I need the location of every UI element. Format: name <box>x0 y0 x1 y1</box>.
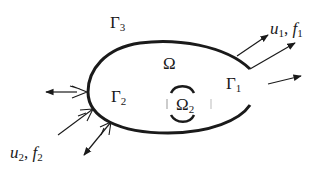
omega-label: Ω <box>163 55 176 72</box>
arrow-left-3 <box>84 122 111 155</box>
omega2-label: Ω2 <box>176 96 194 115</box>
arrow-f1 <box>250 43 295 69</box>
omega2-bottom-arc <box>171 115 194 122</box>
omega2-top-arc <box>171 86 194 93</box>
u1-f1-label: u1, f1 <box>270 20 303 39</box>
arrow-left-2 <box>58 109 93 135</box>
u2-f2-label: u2, f2 <box>10 144 43 163</box>
arrow-right <box>268 76 301 84</box>
arrow-u1 <box>237 35 268 56</box>
gamma2-label: Γ2 <box>111 88 126 107</box>
domain-diagram: Γ3 Ω Γ2 Γ1 Ω2 u1, f1 u2, f2 <box>0 0 318 173</box>
gamma3-label: Γ3 <box>110 14 125 33</box>
gamma1-label: Γ1 <box>226 75 241 94</box>
